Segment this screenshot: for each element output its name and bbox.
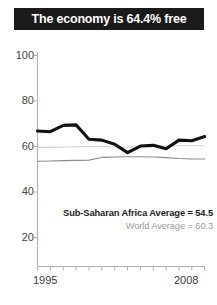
region-average-label: Sub-Saharan Africa Average = 54.5 <box>38 208 213 218</box>
world-average-label: World Average = 60.3 <box>38 221 213 231</box>
economic-freedom-score-line <box>38 125 205 153</box>
x-tick-start: 1995 <box>33 274 57 286</box>
region-average-line <box>38 157 205 162</box>
chart-svg <box>0 0 217 305</box>
y-axis-ticks <box>34 56 38 238</box>
x-axis-ticks <box>38 267 205 271</box>
chart-annotations: Sub-Saharan Africa Average = 54.5 World … <box>38 208 213 231</box>
x-tick-end: 2008 <box>174 274 198 286</box>
plot-area <box>0 0 217 305</box>
chart-card: The economy is 64.4% free 100 80 60 40 2… <box>0 0 217 305</box>
